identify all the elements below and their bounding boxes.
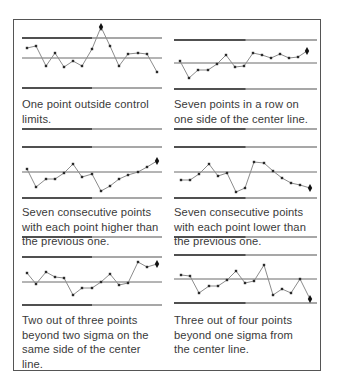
data-point <box>156 71 158 73</box>
data-point <box>45 65 47 67</box>
data-point <box>208 163 210 165</box>
data-point <box>35 283 37 285</box>
data-point <box>45 178 47 180</box>
data-point <box>81 287 83 289</box>
data-point <box>146 53 148 55</box>
data-point <box>281 288 283 290</box>
highlight-point-icon <box>155 157 159 165</box>
data-point <box>272 170 274 172</box>
data-point <box>72 60 74 62</box>
caption-line: Three out of four points <box>174 313 324 328</box>
data-series <box>180 51 307 78</box>
data-point <box>26 47 28 49</box>
data-point <box>179 60 181 62</box>
data-point <box>54 178 56 180</box>
data-point <box>290 292 292 294</box>
data-point <box>225 54 227 56</box>
data-point <box>235 270 237 272</box>
data-point <box>180 179 182 181</box>
data-point <box>109 45 111 47</box>
data-point <box>146 166 148 168</box>
data-point <box>63 277 65 279</box>
caption-line: limits. <box>22 112 167 127</box>
highlight-point-icon <box>305 47 309 55</box>
data-point <box>54 276 56 278</box>
caption-line: Seven consecutive points <box>174 205 324 220</box>
caption-line: beyond one sigma from <box>174 328 324 343</box>
highlight-point-icon <box>155 260 159 268</box>
data-point <box>244 282 246 284</box>
data-point <box>63 172 65 174</box>
caption-rule-2: Seven points in a row on one side of the… <box>174 97 324 126</box>
data-point <box>35 45 37 47</box>
data-series <box>27 161 157 191</box>
data-point <box>100 281 102 283</box>
caption-line: line. <box>22 357 172 372</box>
data-point <box>72 294 74 296</box>
data-point <box>127 53 129 55</box>
data-point <box>100 190 102 192</box>
data-point <box>208 285 210 287</box>
data-point <box>188 77 190 79</box>
data-point <box>299 278 301 280</box>
caption-rule-6: Three out of four points beyond one sigm… <box>174 313 324 357</box>
data-point <box>263 162 265 164</box>
data-point <box>180 274 182 276</box>
data-point <box>281 177 283 179</box>
data-point <box>137 52 139 54</box>
data-point <box>72 163 74 165</box>
data-point <box>118 178 120 180</box>
data-point <box>235 191 237 193</box>
data-point <box>217 285 219 287</box>
data-point <box>270 57 272 59</box>
data-point <box>226 172 228 174</box>
data-point <box>198 292 200 294</box>
caption-rule-3: Seven consecutive points with each point… <box>22 205 172 249</box>
data-point <box>226 279 228 281</box>
data-point <box>290 182 292 184</box>
data-point <box>234 66 236 68</box>
data-point <box>279 53 281 55</box>
data-point <box>252 52 254 54</box>
data-point <box>263 264 265 266</box>
data-point <box>109 273 111 275</box>
data-point <box>127 174 129 176</box>
data-point <box>118 284 120 286</box>
caption-line: with each point lower than <box>174 220 324 235</box>
data-point <box>272 294 274 296</box>
data-point <box>146 266 148 268</box>
caption-line: the center line. <box>174 342 324 357</box>
highlight-point-icon <box>308 184 312 192</box>
data-point <box>197 69 199 71</box>
caption-line: Seven consecutive points <box>22 205 172 220</box>
data-point <box>288 57 290 59</box>
data-point <box>91 173 93 175</box>
caption-line: One point outside control <box>22 97 167 112</box>
data-point <box>216 63 218 65</box>
caption-line: same side of the center <box>22 342 172 357</box>
data-point <box>243 65 245 67</box>
data-point <box>137 171 139 173</box>
data-point <box>253 280 255 282</box>
caption-line: the previous one. <box>22 234 172 249</box>
data-point <box>35 186 37 188</box>
data-point <box>81 176 83 178</box>
caption-line: Two out of three points <box>22 313 172 328</box>
data-point <box>198 173 200 175</box>
data-series <box>27 262 157 295</box>
data-point <box>118 65 120 67</box>
data-point <box>207 69 209 71</box>
data-point <box>127 282 129 284</box>
caption-rule-5: Two out of three points beyond two sigma… <box>22 313 172 371</box>
data-point <box>54 52 56 54</box>
data-point <box>63 66 65 68</box>
data-point <box>91 48 93 50</box>
caption-rule-4: Seven consecutive points with each point… <box>174 205 324 249</box>
data-point <box>109 185 111 187</box>
data-point <box>26 272 28 274</box>
data-point <box>244 187 246 189</box>
caption-line: with each point higher than <box>22 220 172 235</box>
data-point <box>261 54 263 56</box>
data-point <box>189 275 191 277</box>
caption-line: beyond two sigma on the <box>22 328 172 343</box>
